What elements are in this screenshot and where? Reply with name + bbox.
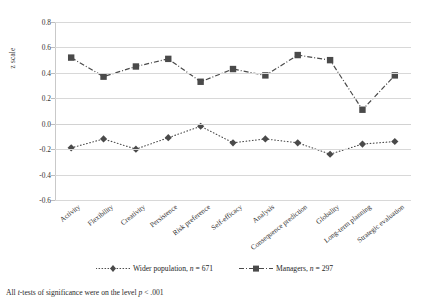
plot-area [55,22,411,200]
data-point[interactable] [294,139,301,146]
footnote-suffix: < .001 [144,288,163,297]
gridline [55,98,411,99]
footnote-middle: -tests of significance were on the level [20,288,137,297]
footnote-p: p [138,288,142,297]
legend-label-text: Wider population, [133,264,188,273]
y-axis-tick-label: 0.6 [11,43,51,52]
footnote-prefix: All [6,288,16,297]
data-point[interactable] [230,66,236,72]
data-point[interactable] [100,73,106,79]
data-point[interactable] [197,79,203,85]
data-point[interactable] [391,138,398,145]
x-axis-category-label: Creativity [119,203,147,227]
legend-label-count: = 671 [195,264,213,273]
y-axis-tick [51,73,55,74]
y-axis-tick [51,175,55,176]
data-point[interactable] [100,135,107,142]
gridline [55,124,411,125]
legend-label-text: Managers, [276,264,308,273]
data-point[interactable] [295,52,301,58]
y-axis-tick [51,124,55,125]
x-axis-category-label: Analysis [252,203,277,225]
data-point[interactable] [133,63,139,69]
y-axis-tick-label: 0.0 [11,119,51,128]
y-axis-tick [51,149,55,150]
y-axis-tick-labels: 0.80.60.40.20.0-0.2-0.4-0.6 [5,22,51,200]
gridline [55,175,411,176]
data-point[interactable] [326,151,333,158]
data-point[interactable] [359,107,365,113]
legend-label-n: n [310,264,314,273]
series-line-2 [71,55,395,110]
data-point[interactable] [68,144,75,151]
data-point[interactable] [165,134,172,141]
y-axis-tick-label: 0.2 [11,94,51,103]
legend-label-count: = 297 [316,264,334,273]
gridline [55,73,411,74]
y-axis-tick [51,22,55,23]
gridline [55,22,411,23]
y-axis-tick [51,200,55,201]
data-point[interactable] [165,56,171,62]
data-point[interactable] [359,140,366,147]
gridline [55,47,411,48]
y-axis-tick [51,47,55,48]
x-axis-category-label: Flexibility [86,203,115,228]
legend-marker-square-dashdot [239,264,273,273]
x-axis-category-label: Globality [315,203,341,226]
x-axis-category-label: Activity [59,203,82,224]
series-lines [55,22,411,200]
legend-label-managers: Managers, n = 297 [276,264,333,273]
data-point[interactable] [68,54,74,60]
chart-footnote: All t-tests of significance were on the … [6,288,164,297]
chart-legend: Wider population, n = 671 Managers, n = … [0,264,429,273]
y-axis-tick [51,98,55,99]
y-axis-tick-label: 0.4 [11,68,51,77]
chart-figure: z scale 0.80.60.40.20.0-0.2-0.4-0.6 Acti… [0,0,429,308]
x-axis-category-label: Consequence prediction [249,203,309,252]
legend-label-wider-population: Wider population, n = 671 [133,264,213,273]
data-point[interactable] [229,139,236,146]
y-axis-tick-label: 0.8 [11,18,51,27]
x-axis-category-label: Self-efficacy [210,203,244,232]
gridline [55,200,411,201]
legend-item-wider-population[interactable]: Wider population, n = 671 [96,264,213,273]
legend-marker-diamond-dotted [96,264,130,273]
y-axis-tick-label: -0.2 [11,145,51,154]
legend-item-managers[interactable]: Managers, n = 297 [239,264,333,273]
y-axis-tick-label: -0.4 [11,170,51,179]
y-axis-tick-label: -0.6 [11,196,51,205]
x-axis-category-label: Persistence [149,203,179,229]
gridline [55,149,411,150]
data-point[interactable] [327,57,333,63]
legend-label-n: n [190,264,194,273]
data-point[interactable] [262,135,269,142]
